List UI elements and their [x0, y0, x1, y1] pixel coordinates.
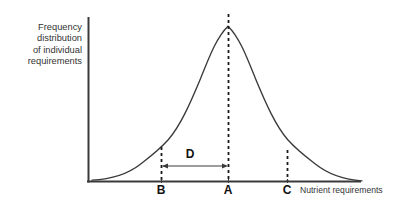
marker-label-b: B [151, 183, 171, 198]
y-axis-label: Frequency distribution of individual req… [8, 22, 82, 67]
span-arrow-d [162, 163, 228, 168]
marker-label-c: C [277, 183, 297, 198]
distribution-curve [92, 26, 362, 181]
marker-label-a: A [218, 183, 238, 198]
span-label-d: D [181, 147, 199, 162]
x-axis-label: Nutrient requirements [300, 185, 383, 195]
distribution-figure: Frequency distribution of individual req… [0, 0, 403, 203]
